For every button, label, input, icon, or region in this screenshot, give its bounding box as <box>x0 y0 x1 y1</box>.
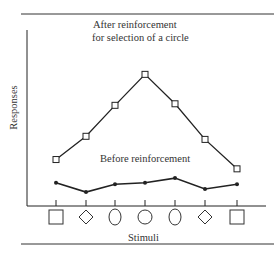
stimulus-shapes <box>49 209 244 225</box>
y-axis-label: Responses <box>8 83 19 133</box>
after-label-line2: for selection of a circle <box>92 32 189 43</box>
before-label: Before reinforcement <box>100 153 190 164</box>
x-ticks <box>56 200 237 206</box>
before-reinforcement-line <box>56 178 237 192</box>
after-label-line1: After reinforcement <box>93 19 177 30</box>
x-axis-label: Stimuli <box>128 232 159 243</box>
